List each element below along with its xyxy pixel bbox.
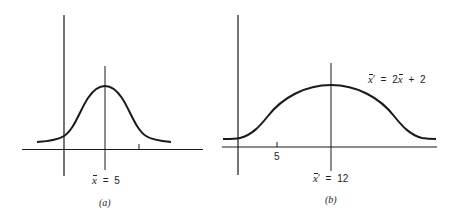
panel-b-transform-label: x′ = 2x + 2: [368, 73, 426, 85]
panel-a-mean-value: 5: [114, 175, 120, 186]
diagram-canvas: [0, 0, 457, 217]
panel-b-mean-label: x′ = 12: [313, 172, 348, 184]
panel-b-tick-label: 5: [274, 151, 280, 162]
panel-b: [222, 15, 437, 175]
panel-a-mean-symbol: x: [92, 174, 97, 186]
panel-a: [22, 15, 203, 176]
panel-b-mean-value: 12: [337, 173, 348, 184]
panel-a-mean-label: x = 5: [92, 174, 120, 186]
panel-b-caption: (b): [325, 194, 337, 205]
panel-b-normal-curve: [223, 85, 436, 139]
panel-a-normal-curve: [37, 86, 171, 142]
panel-a-caption: (a): [99, 197, 111, 208]
panel-b-mean-symbol: x: [313, 172, 318, 184]
